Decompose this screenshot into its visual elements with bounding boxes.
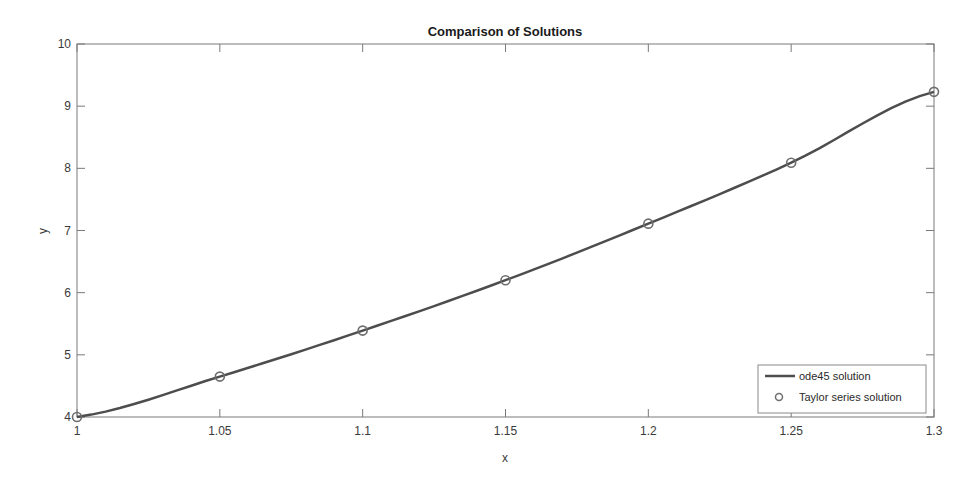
legend-label-taylor: Taylor series solution	[799, 391, 902, 403]
y-tick-label: 6	[64, 286, 71, 300]
y-tick-label: 8	[64, 161, 71, 175]
chart-title: Comparison of Solutions	[428, 24, 583, 39]
x-tick-label: 1.25	[779, 424, 803, 438]
x-tick-label: 1.05	[208, 424, 232, 438]
x-tick-label: 1	[74, 424, 81, 438]
x-axis-label: x	[502, 451, 508, 465]
y-tick-label: 9	[64, 99, 71, 113]
y-tick-label: 5	[64, 348, 71, 362]
y-tick-label: 4	[64, 410, 71, 424]
plot-area	[77, 44, 934, 417]
y-tick-label: 7	[64, 224, 71, 238]
x-tick-label: 1.3	[926, 424, 943, 438]
y-axis-label: y	[36, 228, 50, 234]
y-tick-label: 10	[58, 37, 72, 51]
x-tick-label: 1.2	[640, 424, 657, 438]
legend: ode45 solution Taylor series solution	[758, 365, 926, 413]
legend-label-ode45: ode45 solution	[799, 370, 871, 382]
chart: Comparison of Solutions 11.051.11.151.21…	[0, 0, 978, 488]
x-tick-label: 1.15	[494, 424, 518, 438]
x-tick-label: 1.1	[354, 424, 371, 438]
